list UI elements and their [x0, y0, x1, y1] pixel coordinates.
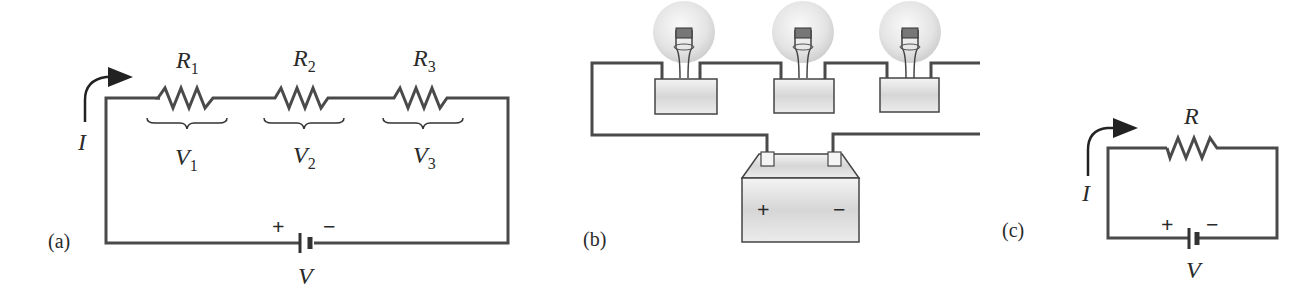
r1-label: R1: [175, 47, 199, 77]
light-bulb-2: [772, 1, 834, 113]
panel-label-a: (a): [48, 230, 70, 253]
battery-minus-label: −: [1206, 212, 1219, 237]
panel-c-simple-circuit: R I + − V (c): [1002, 103, 1277, 283]
resistor-r: [1167, 138, 1222, 158]
battery-minus-label: −: [833, 197, 846, 222]
resistor-r1: [158, 88, 269, 108]
circuit-figure: I R1 R2 R3 V1 V2 V3 + − V (a): [0, 0, 1309, 294]
r2-label: R2: [292, 45, 316, 75]
battery-plus-label: +: [272, 214, 285, 239]
panel-a-series-circuit: I R1 R2 R3 V1 V2 V3 + − V (a): [48, 45, 508, 289]
panel-b-bulbs-circuit: + − (b): [583, 1, 980, 251]
battery-plus-label: +: [1161, 212, 1174, 237]
brace-v2: [264, 118, 344, 129]
v1-label: V1: [175, 144, 198, 174]
wire-loop: [1108, 148, 1277, 238]
v3-label: V3: [413, 142, 436, 172]
v2-label: V2: [293, 142, 316, 172]
panel-label-b: (b): [583, 228, 606, 251]
current-label: I: [1081, 180, 1091, 206]
battery-voltage-label: V: [1186, 257, 1203, 283]
current-label: I: [77, 129, 87, 155]
current-arrow-icon: [1088, 128, 1133, 176]
r3-label: R3: [412, 45, 436, 75]
panel-label-c: (c): [1002, 219, 1024, 242]
battery-voltage-label: V: [298, 263, 315, 289]
battery-plus-label: +: [757, 197, 770, 222]
resistor-label: R: [1183, 103, 1199, 129]
brace-v3: [383, 118, 463, 129]
brace-v1: [147, 118, 227, 129]
light-bulb-3: [879, 1, 941, 112]
wire-return: [833, 134, 980, 155]
light-bulb-1: [653, 1, 717, 114]
resistor-r3: [388, 88, 453, 108]
battery-minus-label: −: [323, 214, 336, 239]
resistor-r2: [269, 88, 388, 108]
